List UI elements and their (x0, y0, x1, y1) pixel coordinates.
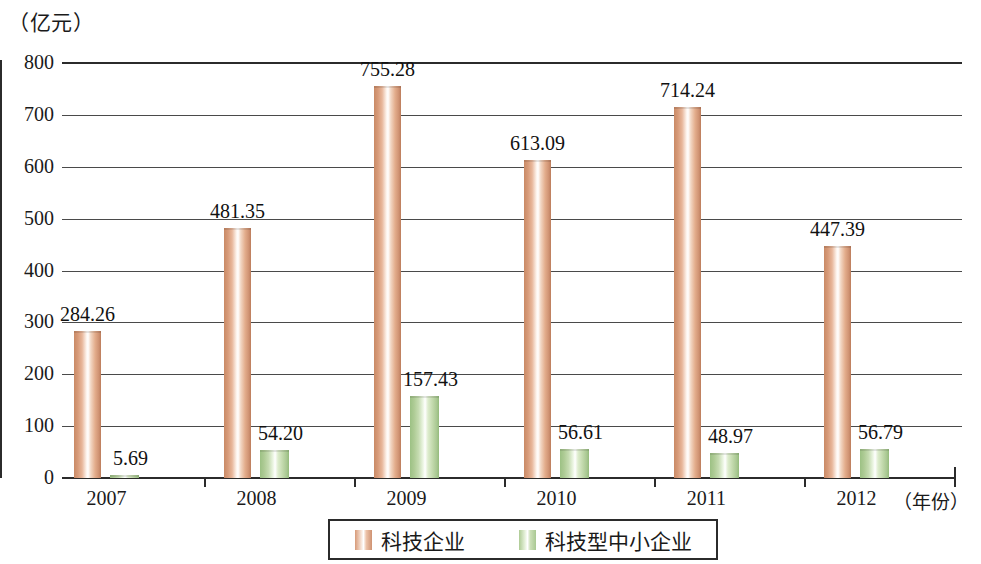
value-label-series-1-2007: 5.69 (71, 447, 191, 470)
legend-item-0[interactable]: 科技企业 (355, 525, 465, 555)
bar-series-1-2008 (260, 450, 289, 478)
bar-series-0-2009 (374, 86, 401, 478)
bar-cap (710, 453, 739, 455)
value-label-series-0-2007: 284.26 (28, 303, 148, 326)
value-label-series-1-2009: 157.43 (371, 368, 491, 391)
legend-swatch-icon-series-1 (519, 530, 536, 550)
bar-cap (560, 449, 589, 451)
bar-cap (260, 450, 289, 452)
bar-chart: （亿元） 0100200300400500600700800 200720082… (0, 0, 981, 564)
value-label-series-1-2008: 54.20 (221, 422, 341, 445)
bar-cap (824, 246, 851, 248)
x-tick-label-2007: 2007 (47, 487, 167, 510)
value-label-series-1-2010: 56.61 (521, 421, 641, 444)
x-tick-1 (354, 478, 356, 487)
chart-legend: 科技企业 科技型中小企业 (328, 519, 718, 560)
y-axis-unit-caption: （亿元） (8, 6, 94, 36)
y-tick-label-200: 200 (4, 363, 54, 383)
x-axis-line (62, 477, 956, 479)
gridline-700 (62, 115, 962, 116)
value-label-series-0-2010: 613.09 (478, 132, 598, 155)
x-tick-label-2009: 2009 (347, 487, 467, 510)
y-tick-label-600: 600 (4, 156, 54, 176)
bar-series-1-2011 (710, 453, 739, 478)
value-label-series-0-2011: 714.24 (628, 79, 748, 102)
bar-series-1-2009 (410, 396, 439, 478)
value-label-series-0-2009: 755.28 (328, 58, 448, 81)
bar-cap (374, 86, 401, 88)
x-tick-0 (204, 478, 206, 487)
legend-item-1[interactable]: 科技型中小企业 (519, 525, 692, 555)
legend-label-1: 科技型中小企业 (545, 525, 692, 555)
bar-series-1-2010 (560, 449, 589, 478)
bar-cap (224, 228, 251, 230)
y-axis-line (0, 60, 2, 478)
legend-swatch-icon-series-0 (355, 530, 372, 550)
value-label-series-1-2012: 56.79 (821, 421, 941, 444)
x-tick-label-2008: 2008 (197, 487, 317, 510)
y-tick-label-400: 400 (4, 260, 54, 280)
legend-label-0: 科技企业 (381, 525, 465, 555)
y-tick-label-500: 500 (4, 208, 54, 228)
bar-cap (860, 449, 889, 451)
bar-cap (674, 107, 701, 109)
y-tick-label-0: 0 (4, 467, 54, 487)
x-tick-2 (504, 478, 506, 487)
bar-cap (524, 160, 551, 162)
bar-cap (410, 396, 439, 398)
x-tick-label-2011: 2011 (647, 487, 767, 510)
y-tick-label-100: 100 (4, 415, 54, 435)
x-tick-5 (954, 478, 956, 487)
bar-series-1-2007 (110, 475, 139, 478)
bar-series-1-2012 (860, 449, 889, 478)
gridline-800 (62, 62, 962, 64)
x-axis-caption: （年份） (893, 487, 969, 514)
bar-cap (74, 331, 101, 333)
y-tick-label-700: 700 (4, 104, 54, 124)
y-tick-label-800: 800 (4, 52, 54, 72)
x-tick-3 (654, 478, 656, 487)
bar-cap (110, 475, 139, 477)
x-tick-label-2010: 2010 (497, 487, 617, 510)
value-label-series-1-2011: 48.97 (671, 425, 791, 448)
bar-series-0-2011 (674, 107, 701, 478)
x-tick-4 (804, 478, 806, 487)
gridline-600 (62, 167, 962, 168)
value-label-series-0-2008: 481.35 (178, 200, 298, 223)
value-label-series-0-2012: 447.39 (778, 218, 898, 241)
